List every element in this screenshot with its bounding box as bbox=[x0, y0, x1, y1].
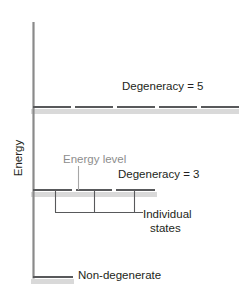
shadow-non-degenerate bbox=[31, 279, 74, 284]
label-degeneracy-3: Degeneracy = 3 bbox=[118, 168, 200, 181]
axis-label-energy: Energy bbox=[12, 128, 24, 188]
label-degeneracy-5: Degeneracy = 5 bbox=[122, 80, 204, 93]
label-individual-states-line2: states bbox=[150, 222, 181, 235]
label-individual-states-line1: Individual bbox=[143, 208, 192, 221]
energy-level-diagram: Energy Degeneracy = 5 Degeneracy = 3 Ene… bbox=[0, 0, 243, 294]
label-non-degenerate: Non-degenerate bbox=[78, 269, 161, 282]
label-energy-level: Energy level bbox=[63, 153, 126, 166]
diagram-canvas bbox=[0, 0, 243, 294]
shadow-degeneracy-5 bbox=[31, 109, 239, 114]
